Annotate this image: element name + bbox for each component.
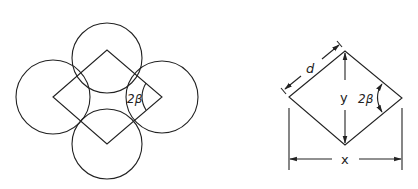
angle-arc: [142, 83, 146, 110]
d-label: d: [306, 61, 315, 76]
figure-canvas: 2β y 2β d x: [0, 0, 418, 189]
left-panel: 2β: [16, 23, 198, 179]
angle-arc-right: [378, 84, 383, 112]
y-label: y: [340, 90, 348, 105]
right-panel: y 2β d x: [281, 41, 402, 170]
d-arrow-left: [285, 76, 301, 89]
d-arrow-right: [322, 45, 339, 59]
angle-label-right: 2β: [358, 92, 374, 106]
x-label: x: [341, 152, 349, 167]
angle-label: 2β: [127, 92, 143, 106]
circle-top: [72, 23, 142, 93]
